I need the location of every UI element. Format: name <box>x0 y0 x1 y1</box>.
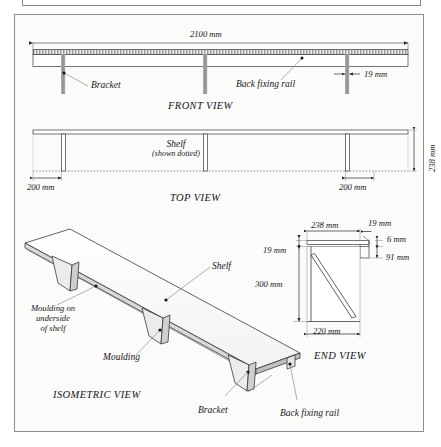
isometric-back-fixing-rail-label: Back fixing rail <box>280 408 339 418</box>
front-back-fixing-rail-label: Back fixing rail <box>236 79 295 89</box>
isometric-moulding-label: Moulding <box>103 352 140 362</box>
end-view-geometry <box>293 228 383 337</box>
isometric-moulding-underside-label-line1: Moulding on <box>6 303 100 313</box>
end-shelf-depth-dimension: 238 mm <box>311 220 338 230</box>
isometric-moulding-underside-label-line2: underside <box>6 313 100 323</box>
front-bracket-thickness-dimension: 19 mm <box>364 69 387 79</box>
front-overall-dimension: 2100 mm <box>190 29 222 39</box>
end-rail-small-dimension: 6 mm <box>387 234 406 244</box>
isometric-shelf-label: Shelf <box>212 261 231 271</box>
isometric-bracket-label: Bracket <box>198 405 228 415</box>
front-view-geometry <box>33 43 408 94</box>
top-right-inset-dimension: 200 mm <box>339 182 366 192</box>
top-shelf-label: Shelf <box>136 139 216 149</box>
top-view-title: TOP VIEW <box>170 192 220 203</box>
top-left-inset-dimension: 200 mm <box>27 182 54 192</box>
top-depth-dimension: 238 mm <box>427 145 437 172</box>
end-bracket-height-dimension: 300 mm <box>255 279 282 289</box>
end-view-title: END VIEW <box>314 350 366 361</box>
top-view-geometry <box>33 130 417 181</box>
end-shelf-thickness-dimension: 19 mm <box>263 245 286 255</box>
front-bracket-label: Bracket <box>91 80 121 90</box>
drawing-sheet: 2100 mm Bracket Back fixing rail 19 mm F… <box>0 0 441 447</box>
end-rail-thickness-dimension: 19 mm <box>368 218 391 228</box>
front-view-title: FRONT VIEW <box>168 100 233 111</box>
isometric-view-title: ISOMETRIC VIEW <box>53 389 141 400</box>
isometric-moulding-underside-label-line3: of shelf <box>6 323 100 333</box>
end-bracket-depth-dimension: 220 mm <box>313 326 340 336</box>
top-shelf-note: (shown dotted) <box>136 149 216 158</box>
end-rail-height-dimension: 91 mm <box>386 252 409 262</box>
